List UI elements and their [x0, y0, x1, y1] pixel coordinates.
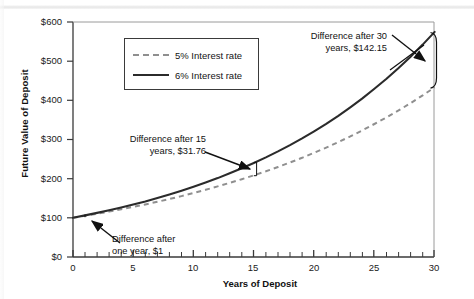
annotation-30-years-line2: years, $142.15	[281, 42, 387, 54]
x-tick-label-30: 30	[419, 262, 449, 273]
y-axis-ticks	[67, 22, 73, 257]
y-tick-label-400: $400	[16, 94, 62, 105]
y-axis-title: Future Value of Deposit	[19, 64, 30, 184]
x-tick-label-25: 25	[359, 262, 389, 273]
annotation-one-year-line1: Difference after	[112, 233, 175, 245]
y-tick-label-300: $300	[16, 133, 62, 144]
x-tick-label-5: 5	[118, 262, 148, 273]
legend-swatch-solid-icon	[133, 71, 169, 79]
chart-figure: Future Value of Deposit $600 $500 $400 $…	[0, 0, 474, 299]
chart-legend: 5% Interest rate 6% Interest rate	[124, 38, 259, 90]
legend-item-5pct: 5% Interest rate	[133, 48, 242, 62]
x-tick-label-0: 0	[58, 262, 88, 273]
leader-line-30-years	[390, 35, 425, 70]
legend-label-6pct: 6% Interest rate	[175, 70, 242, 81]
x-axis-title: Years of Deposit	[160, 278, 360, 289]
annotation-15-years-line2: years, $31.76	[100, 145, 206, 157]
annotation-15-years-line1: Difference after 15	[100, 133, 206, 145]
difference-marker-15-years	[254, 162, 257, 175]
legend-label-5pct: 5% Interest rate	[175, 50, 242, 61]
legend-swatch-dashed-icon	[133, 51, 169, 59]
x-tick-label-20: 20	[299, 262, 329, 273]
x-tick-label-10: 10	[178, 262, 208, 273]
leader-line-15-years	[205, 152, 250, 169]
y-tick-label-100: $100	[16, 212, 62, 223]
annotation-one-year-line2: one year, $1	[112, 245, 175, 257]
y-tick-label-0: $0	[16, 251, 62, 262]
annotation-30-years-line1: Difference after 30	[281, 30, 387, 42]
y-tick-label-500: $500	[16, 55, 62, 66]
annotation-one-year: Difference after one year, $1	[112, 233, 175, 257]
y-tick-label-600: $600	[16, 16, 62, 27]
legend-item-6pct: 6% Interest rate	[133, 68, 242, 82]
y-tick-label-200: $200	[16, 173, 62, 184]
x-tick-label-15: 15	[238, 262, 268, 273]
annotation-30-years: Difference after 30 years, $142.15	[281, 30, 387, 54]
annotation-15-years: Difference after 15 years, $31.76	[100, 133, 206, 157]
